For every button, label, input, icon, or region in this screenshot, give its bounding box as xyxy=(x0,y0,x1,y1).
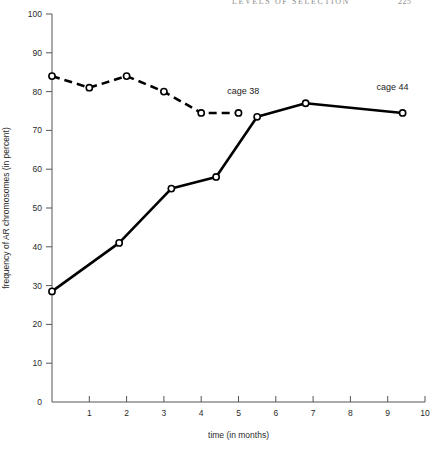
series-line-0 xyxy=(52,76,239,113)
data-point-marker xyxy=(235,110,241,116)
running-head: LEVELS OF SELECTION 225 xyxy=(0,0,438,10)
y-axis-tick-label: 80 xyxy=(33,87,43,97)
y-axis-tick-label: 30 xyxy=(33,281,43,291)
y-axis-tick-label: 90 xyxy=(33,48,43,58)
data-point-marker xyxy=(124,73,130,79)
data-point-marker xyxy=(168,186,174,192)
running-head-page-number: 225 xyxy=(398,0,412,6)
x-axis-tick-label: 7 xyxy=(311,408,316,418)
y-axis-tick-label: 60 xyxy=(33,164,43,174)
axes-layer: 010203040506070809010012345678910time (i… xyxy=(1,9,430,440)
series-line-1 xyxy=(52,103,403,291)
series-annotation-1: cage 44 xyxy=(377,82,409,92)
y-axis-tick-label: 50 xyxy=(33,203,43,213)
data-point-marker xyxy=(213,174,219,180)
x-axis-tick-label: 1 xyxy=(87,408,92,418)
line-chart: 010203040506070809010012345678910time (i… xyxy=(0,0,438,449)
labels-layer: cage 38cage 44 xyxy=(227,82,408,96)
x-axis-tick-label: 5 xyxy=(236,408,241,418)
y-axis-tick-label: 40 xyxy=(33,242,43,252)
x-axis-tick-label: 10 xyxy=(420,408,430,418)
data-point-marker xyxy=(49,288,55,294)
x-axis-title: time (in months) xyxy=(208,430,269,440)
y-axis-tick-label: 70 xyxy=(33,125,43,135)
x-axis-tick-label: 2 xyxy=(124,408,129,418)
y-axis-tick-label: 100 xyxy=(28,9,42,19)
x-axis-tick-label: 3 xyxy=(162,408,167,418)
data-point-marker xyxy=(49,73,55,79)
figure-container: LEVELS OF SELECTION 225 0102030405060708… xyxy=(0,0,438,449)
data-point-marker xyxy=(161,89,167,95)
x-axis-tick-label: 9 xyxy=(385,408,390,418)
x-axis-tick-label: 6 xyxy=(273,408,278,418)
series-layer xyxy=(49,73,406,295)
x-axis-tick-label: 4 xyxy=(199,408,204,418)
data-point-marker xyxy=(86,85,92,91)
y-axis-tick-label: 0 xyxy=(37,397,42,407)
x-axis-tick-label: 8 xyxy=(348,408,353,418)
y-axis-title: frequency of AR chromosomes (in percent) xyxy=(1,127,11,289)
data-point-marker xyxy=(303,100,309,106)
y-axis-tick-label: 20 xyxy=(33,319,43,329)
data-point-marker xyxy=(116,240,122,246)
data-point-marker xyxy=(400,110,406,116)
y-axis-tick-label: 10 xyxy=(33,358,43,368)
series-annotation-0: cage 38 xyxy=(227,86,259,96)
data-point-marker xyxy=(198,110,204,116)
running-head-title: LEVELS OF SELECTION xyxy=(232,0,350,6)
data-point-marker xyxy=(254,114,260,120)
